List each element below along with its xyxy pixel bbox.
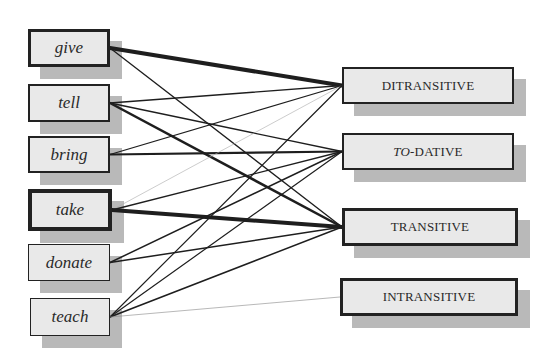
link-teach-transitive <box>110 227 342 317</box>
frame-node-transitive: TRANSITIVE <box>342 208 518 246</box>
frame-node-intransitive: INTRANSITIVE <box>340 278 518 316</box>
verb-node-tell: tell <box>28 84 110 122</box>
frame-node-ditransitive: DITRANSITIVE <box>342 67 514 104</box>
verb-frame-diagram: give tell bring take donate teach DITRAN… <box>0 0 548 362</box>
link-take-ditransitive <box>112 86 342 211</box>
frame-label-transitive: TRANSITIVE <box>391 219 470 235</box>
link-teach-to-dative <box>110 152 342 318</box>
link-take-transitive <box>112 210 342 227</box>
link-teach-intransitive <box>110 297 340 317</box>
verb-node-take: take <box>28 189 112 231</box>
link-tell-transitive <box>110 103 342 227</box>
verb-label-give: give <box>55 38 83 58</box>
verb-label-take: take <box>56 200 84 220</box>
verb-label-teach: teach <box>52 307 89 327</box>
frame-label-to-dative-rest: -DATIVE <box>410 144 463 160</box>
verb-node-donate: donate <box>28 244 110 281</box>
verb-label-bring: bring <box>51 145 88 165</box>
link-bring-to-dative <box>110 152 342 155</box>
verb-node-bring: bring <box>28 136 110 173</box>
link-tell-ditransitive <box>110 86 342 104</box>
frame-node-to-dative: TO-DATIVE <box>342 133 514 170</box>
verb-label-tell: tell <box>58 93 80 113</box>
link-give-ditransitive <box>110 48 342 86</box>
frame-label-ditransitive: DITRANSITIVE <box>382 78 475 94</box>
verb-node-teach: teach <box>30 298 110 336</box>
verb-node-give: give <box>28 29 110 67</box>
link-take-to-dative <box>112 152 342 211</box>
frame-label-to-dative-italic: TO <box>393 144 410 160</box>
frame-label-intransitive: INTRANSITIVE <box>383 289 476 305</box>
link-give-transitive <box>110 48 342 227</box>
link-donate-transitive <box>110 227 342 263</box>
verb-label-donate: donate <box>46 253 92 273</box>
